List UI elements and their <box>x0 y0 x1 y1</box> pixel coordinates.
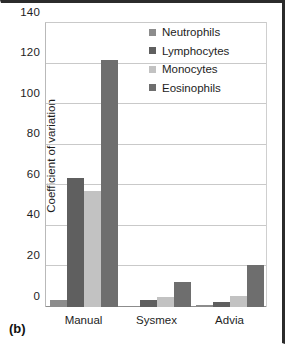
bar-sysmex-lymphocytes <box>140 300 157 307</box>
legend-item-neutrophils: Neutrophils <box>149 26 229 38</box>
bar-sysmex-neutrophils <box>123 306 140 307</box>
legend-label-eosinophils: Eosinophils <box>162 82 221 94</box>
y-tick-label-20: 20 <box>27 249 40 261</box>
bar-group-manual: Manual <box>47 23 120 307</box>
bar-manual-lymphocytes <box>67 178 84 307</box>
legend-item-lymphocytes: Lymphocytes <box>149 45 229 57</box>
legend-swatch-icon-eosinophils <box>149 84 156 91</box>
y-tick-label-120: 120 <box>20 46 40 58</box>
bar-manual-eosinophils <box>101 60 118 307</box>
x-tick-label-sysmex: Sysmex <box>120 314 193 326</box>
legend-label-monocytes: Monocytes <box>162 63 218 75</box>
bar-advia-lymphocytes <box>213 302 230 307</box>
figure-caption: (b) <box>9 321 26 336</box>
y-tick-label-100: 100 <box>20 87 40 99</box>
bar-manual-monocytes <box>84 191 101 307</box>
legend-item-eosinophils: Eosinophils <box>149 82 229 94</box>
y-tick-label-80: 80 <box>27 127 40 139</box>
legend-label-lymphocytes: Lymphocytes <box>162 45 229 57</box>
legend-item-monocytes: Monocytes <box>149 63 229 75</box>
chart-legend: NeutrophilsLymphocytesMonocytesEosinophi… <box>149 26 229 94</box>
legend-swatch-icon-lymphocytes <box>149 47 156 54</box>
bar-advia-monocytes <box>230 296 247 307</box>
bar-advia-neutrophils <box>196 305 213 307</box>
bar-sysmex-eosinophils <box>174 282 191 307</box>
x-tick-label-manual: Manual <box>47 314 120 326</box>
y-tick-label-140: 140 <box>20 6 40 18</box>
bar-advia-eosinophils <box>247 265 264 307</box>
y-tick-label-0: 0 <box>33 290 40 302</box>
x-tick-label-advia: Advia <box>193 314 266 326</box>
y-tick-label-40: 40 <box>27 208 40 220</box>
legend-label-neutrophils: Neutrophils <box>162 26 220 38</box>
y-tick-label-60: 60 <box>27 168 40 180</box>
legend-swatch-icon-monocytes <box>149 66 156 73</box>
bar-manual-neutrophils <box>50 300 67 307</box>
legend-swatch-icon-neutrophils <box>149 29 156 36</box>
figure-panel: Coefficient of variation 020406080100120… <box>0 0 285 344</box>
bar-sysmex-monocytes <box>157 297 174 307</box>
